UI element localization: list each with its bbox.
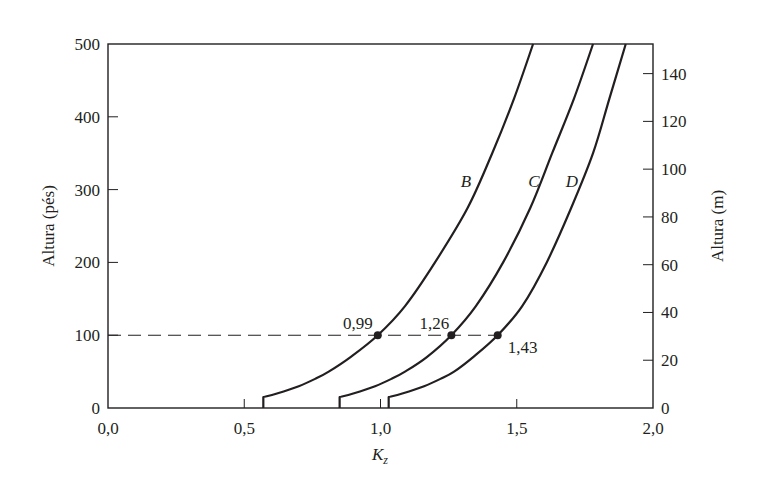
y-left-tick-label: 200 bbox=[75, 253, 101, 272]
y-right-tick-label: 40 bbox=[661, 303, 678, 322]
x-axis-title-sub: z bbox=[382, 453, 388, 467]
point-marker bbox=[494, 331, 502, 339]
curve-label-b: B bbox=[461, 172, 472, 191]
x-tick-label: 2,0 bbox=[642, 419, 663, 438]
y-left-tick-label: 300 bbox=[75, 181, 101, 200]
point-value-label: 1,43 bbox=[508, 338, 538, 357]
y-right-tick-label: 120 bbox=[661, 112, 687, 131]
y-right-tick-label: 60 bbox=[661, 256, 678, 275]
x-tick-label: 0,5 bbox=[234, 419, 255, 438]
y-axis-left-title: Altura (pés) bbox=[39, 185, 58, 267]
right-y-axis-ticks: 020406080100120140 bbox=[643, 65, 687, 418]
y-axis-right-title: Altura (m) bbox=[708, 190, 727, 262]
y-right-tick-label: 140 bbox=[661, 65, 687, 84]
x-tick-label: 0,0 bbox=[97, 419, 118, 438]
point-value-label: 1,26 bbox=[420, 314, 450, 333]
x-axis-title: Kz bbox=[371, 445, 388, 467]
curve-b bbox=[263, 44, 533, 408]
y-left-tick-label: 400 bbox=[75, 108, 101, 127]
x-tick-label: 1,5 bbox=[506, 419, 527, 438]
curve-label-d: D bbox=[565, 172, 579, 191]
y-left-tick-label: 0 bbox=[92, 399, 101, 418]
plot-border bbox=[108, 44, 653, 408]
left-y-axis-ticks: 0100200300400500 bbox=[75, 35, 119, 418]
curve-c bbox=[340, 44, 593, 408]
y-right-tick-label: 100 bbox=[661, 160, 687, 179]
y-left-tick-label: 500 bbox=[75, 35, 101, 54]
point-value-label: 0,99 bbox=[343, 314, 373, 333]
y-right-tick-label: 20 bbox=[661, 351, 678, 370]
point-marker bbox=[374, 331, 382, 339]
x-tick-label: 1,0 bbox=[370, 419, 391, 438]
curves bbox=[263, 44, 625, 408]
plot-frame bbox=[108, 44, 653, 408]
kz-height-chart: 0,00,51,01,52,0 0100200300400500 0204060… bbox=[0, 0, 761, 482]
y-left-tick-label: 100 bbox=[75, 326, 101, 345]
curve-labels: BCD bbox=[461, 172, 579, 191]
y-right-tick-label: 80 bbox=[661, 208, 678, 227]
curve-label-c: C bbox=[528, 172, 540, 191]
x-axis-ticks: 0,00,51,01,52,0 bbox=[97, 399, 663, 438]
y-right-tick-label: 0 bbox=[661, 399, 670, 418]
